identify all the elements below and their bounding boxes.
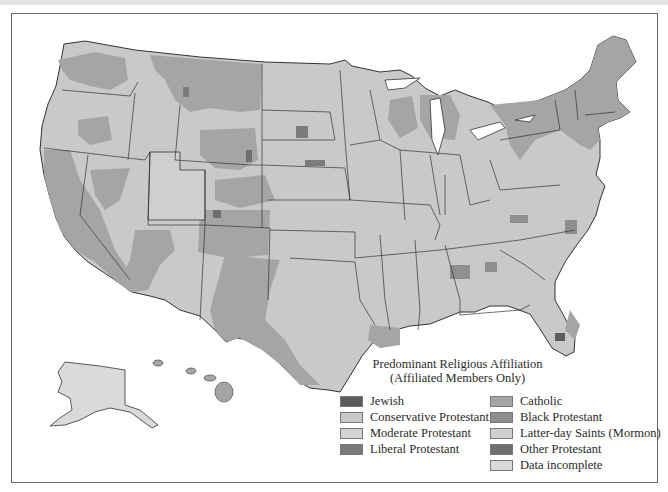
legend-title-line2: (Affiliated Members Only) — [360, 371, 555, 385]
contiguous-us — [40, 36, 636, 392]
hawaii-inset — [153, 360, 233, 402]
legend-item-black-protestant: Black Protestant — [490, 410, 602, 424]
legend-label: Moderate Protestant — [370, 426, 471, 441]
legend-item-other-protestant: Other Protestant — [490, 442, 602, 456]
legend-item-moderate-protestant: Moderate Protestant — [340, 426, 471, 440]
legend-label: Catholic — [520, 394, 562, 409]
swatch-other-protestant — [490, 444, 513, 455]
swatch-liberal-protestant — [340, 444, 363, 455]
legend-item-latter-day-saints: Latter-day Saints (Mormon) — [490, 426, 661, 440]
legend-label: Latter-day Saints (Mormon) — [520, 426, 661, 441]
swatch-data-incomplete — [490, 460, 513, 471]
legend-title: Predominant Religious Affiliation (Affil… — [360, 357, 555, 385]
legend-label: Other Protestant — [520, 442, 602, 457]
legend-label: Liberal Protestant — [370, 442, 459, 457]
legend-title-line1: Predominant Religious Affiliation — [360, 357, 555, 371]
swatch-black-protestant — [490, 412, 513, 423]
legend-item-catholic: Catholic — [490, 394, 562, 408]
legend-item-liberal-protestant: Liberal Protestant — [340, 442, 459, 456]
legend-item-conservative-protestant: Conservative Protestant — [340, 410, 489, 424]
swatch-catholic — [490, 396, 513, 407]
legend-label: Conservative Protestant — [370, 410, 489, 425]
legend-label: Jewish — [370, 394, 404, 409]
swatch-moderate-protestant — [340, 428, 363, 439]
legend-item-jewish: Jewish — [340, 394, 404, 408]
legend: Jewish Conservative Protestant Moderate … — [340, 394, 660, 474]
swatch-conservative-protestant — [340, 412, 363, 423]
swatch-latter-day-saints — [490, 428, 513, 439]
alaska-inset — [50, 362, 158, 428]
legend-label: Black Protestant — [520, 410, 602, 425]
legend-item-data-incomplete: Data incomplete — [490, 458, 602, 472]
legend-label: Data incomplete — [520, 458, 602, 473]
swatch-jewish — [340, 396, 363, 407]
